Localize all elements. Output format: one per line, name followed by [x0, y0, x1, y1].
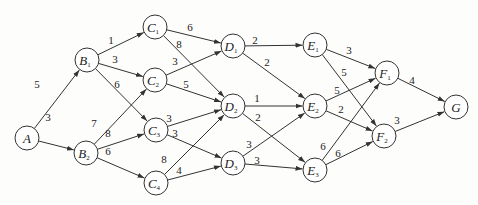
- edge-c3-d2: [168, 110, 222, 127]
- edge-e3-f1: [322, 83, 379, 160]
- edge-d2-e3: [243, 113, 306, 162]
- edge-weight-label: 2: [255, 111, 261, 123]
- node-d1: D1: [221, 34, 245, 58]
- edge-weight-label: 6: [114, 78, 120, 90]
- edge-weight-label: 6: [335, 147, 341, 159]
- edge-a-b1: [34, 70, 79, 129]
- node-c4: C4: [144, 171, 168, 195]
- node-e2: E2: [303, 94, 327, 118]
- edge-f2-g: [395, 112, 444, 132]
- edge-d3-e2: [243, 113, 305, 156]
- edge-weight-label: 2: [252, 34, 258, 46]
- edge-weight-label: 3: [254, 154, 260, 166]
- edge-weight-label: 5: [341, 66, 347, 78]
- node-f2: F2: [372, 124, 396, 148]
- edge-weight-label: 3: [172, 55, 178, 67]
- edge-weight-label: 2: [264, 56, 270, 68]
- edge-weight-label: 6: [105, 145, 111, 157]
- edge-weight-label: 3: [166, 112, 172, 124]
- edge-weight-label: 4: [409, 74, 415, 86]
- graph-diagram: 531367866835338422123335526643 AB1B2C1C2…: [0, 0, 478, 205]
- edge-b2-c4: [97, 158, 145, 178]
- node-b2: B2: [74, 141, 98, 165]
- node-c3: C3: [144, 118, 168, 142]
- node-c1: C1: [143, 15, 167, 39]
- edge-e2-f2: [326, 111, 373, 131]
- edge-weight-label: 3: [394, 114, 400, 126]
- edge-weight-label: 8: [161, 153, 167, 165]
- edge-c2-d2: [166, 84, 221, 102]
- edge-weight-label: 3: [246, 138, 252, 150]
- node-f1: F1: [375, 61, 399, 85]
- node-e1: E1: [303, 33, 327, 57]
- edge-weight-label: 8: [176, 38, 182, 50]
- edge-c4-d2: [165, 115, 225, 175]
- edge-weight-label: 3: [346, 44, 352, 56]
- edge-weight-label: 6: [187, 21, 193, 33]
- edge-weight-label: 5: [334, 84, 340, 96]
- edge-weight-label: 7: [91, 117, 97, 129]
- edge-c1-d1: [167, 30, 221, 43]
- edge-e3-f2: [326, 142, 373, 165]
- edge-f1-g: [398, 78, 445, 101]
- edge-weight-label: 5: [183, 78, 189, 90]
- edge-weight-label: 3: [172, 127, 178, 139]
- edge-weight-label: 3: [45, 111, 51, 123]
- nodes-layer: AB1B2C1C2C3C4D1D2D3E1E2E3F1F2G: [15, 15, 468, 195]
- edge-b1-c2: [99, 63, 144, 76]
- edge-b1-c3: [95, 69, 147, 122]
- edge-weight-label: 4: [176, 164, 182, 176]
- edge-a-b2: [39, 141, 74, 150]
- node-d2: D2: [221, 94, 245, 118]
- graph-canvas: 531367866835338422123335526643 AB1B2C1C2…: [0, 0, 478, 205]
- edge-weight-label: 3: [112, 53, 118, 65]
- node-a: A: [15, 126, 39, 150]
- edge-b1-c1: [98, 33, 144, 55]
- node-label: G: [451, 100, 461, 115]
- edge-weight-label: 1: [254, 92, 260, 104]
- edge-weight-label: 5: [34, 78, 40, 90]
- node-g: G: [444, 95, 468, 119]
- node-c2: C2: [143, 68, 167, 92]
- node-e3: E3: [303, 158, 327, 182]
- edge-weight-label: 8: [105, 127, 111, 139]
- node-b1: B1: [75, 48, 99, 72]
- node-d3: D3: [221, 151, 245, 175]
- edge-weight-label: 6: [320, 140, 326, 152]
- node-label: A: [22, 131, 31, 146]
- edge-weight-label: 1: [108, 34, 114, 46]
- edge-d1-e2: [243, 53, 305, 99]
- edge-weight-label: 2: [338, 103, 344, 115]
